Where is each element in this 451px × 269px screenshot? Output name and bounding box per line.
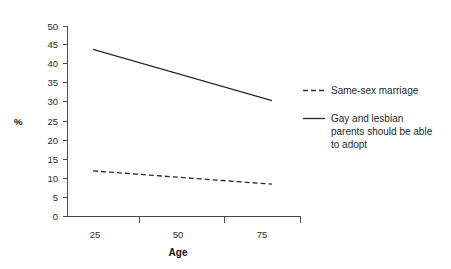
y-tick-label-50: 50 <box>47 21 58 32</box>
y-tick-label-10: 10 <box>47 173 58 184</box>
x-axis-ticks <box>140 217 301 223</box>
x-axis-tick-labels: 25 50 75 <box>90 229 268 240</box>
legend-label-adopt-line-2: parents should be able <box>331 126 433 137</box>
y-tick-label-0: 0 <box>53 211 58 222</box>
y-axis-tick-labels: 50 45 40 35 30 25 20 15 10 5 0 <box>47 21 58 222</box>
y-tick-label-40: 40 <box>47 58 58 69</box>
legend-label-same-sex-marriage: Same-sex marriage <box>331 85 419 96</box>
x-tick-label-25: 25 <box>90 229 101 240</box>
y-tick-label-5: 5 <box>53 192 58 203</box>
legend-label-adopt-line-3: to adopt <box>331 139 367 150</box>
x-axis-title: Age <box>169 247 188 258</box>
legend: Same-sex marriage Gay and lesbian parent… <box>303 85 433 150</box>
series-line-marriage <box>93 171 272 184</box>
y-axis-ticks <box>63 27 68 217</box>
x-tick-label-50: 50 <box>173 229 184 240</box>
legend-entry-same-sex-marriage[interactable]: Same-sex marriage <box>303 85 419 96</box>
series-line-adopt <box>93 49 272 100</box>
y-tick-label-20: 20 <box>47 135 58 146</box>
y-tick-label-15: 15 <box>47 154 58 165</box>
y-tick-label-25: 25 <box>47 116 58 127</box>
y-tick-label-45: 45 <box>47 39 58 50</box>
legend-entry-gay-lesbian-parents-adopt[interactable]: Gay and lesbian parents should be able t… <box>303 113 433 150</box>
line-chart: 50 45 40 35 30 25 20 15 10 5 0 % 25 50 7… <box>0 0 451 269</box>
legend-label-adopt-line-1: Gay and lesbian <box>331 113 403 124</box>
y-tick-label-30: 30 <box>47 96 58 107</box>
y-axis-title: % <box>14 116 23 127</box>
x-tick-label-75: 75 <box>257 229 268 240</box>
y-tick-label-35: 35 <box>47 77 58 88</box>
